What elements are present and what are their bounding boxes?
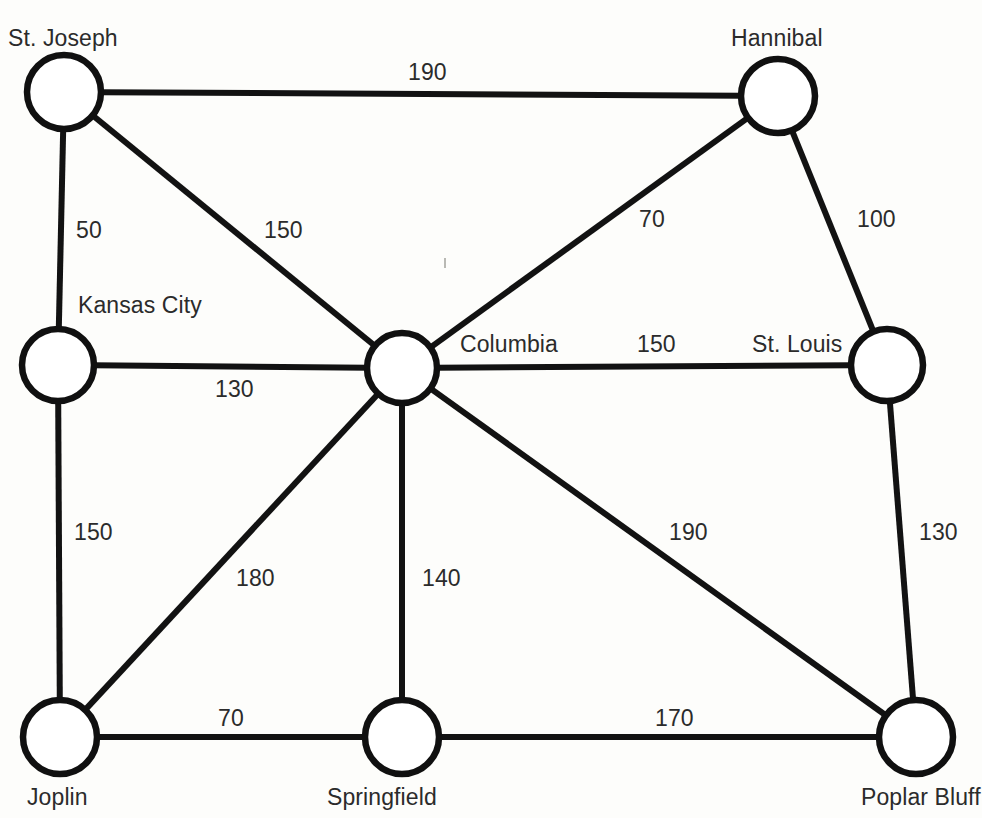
graph-diagram-canvas: 190501507010013015015018014019013070170S… (0, 0, 982, 818)
edge-st_joseph-hannibal (100, 92, 742, 96)
node-label-springfield: Springfield (327, 786, 437, 809)
edge-weight-hannibal-st_louis: 100 (857, 208, 896, 231)
edge-weight-kansas_city-columbia: 130 (215, 378, 254, 401)
node-label-joplin: Joplin (27, 786, 88, 809)
scan-speck-0 (444, 258, 446, 268)
node-joplin[interactable] (23, 700, 97, 774)
node-label-hannibal: Hannibal (731, 27, 823, 50)
edge-weight-springfield-poplar_bluff: 170 (655, 707, 694, 730)
edge-st_joseph-kansas_city (59, 128, 63, 330)
node-poplar_bluff[interactable] (879, 700, 953, 774)
edge-weight-st_louis-poplar_bluff: 130 (919, 521, 958, 544)
node-label-st_louis: St. Louis (752, 333, 842, 356)
edge-weight-st_joseph-columbia: 150 (264, 219, 303, 242)
edge-weight-columbia-st_louis: 150 (637, 333, 676, 356)
edge-weight-columbia-joplin: 180 (236, 567, 275, 590)
node-label-kansas_city: Kansas City (78, 294, 202, 317)
edge-weight-joplin-springfield: 70 (218, 707, 244, 730)
node-st_joseph[interactable] (27, 55, 101, 129)
edge-kansas_city-joplin (58, 400, 60, 701)
edge-hannibal-columbia (430, 117, 749, 348)
edge-weight-columbia-poplar_bluff: 190 (669, 521, 708, 544)
edge-weight-st_joseph-kansas_city: 50 (76, 219, 102, 242)
edge-weight-st_joseph-hannibal: 190 (408, 61, 447, 84)
edge-kansas_city-columbia (93, 365, 368, 367)
node-st_louis[interactable] (851, 329, 923, 401)
edge-weight-hannibal-columbia: 70 (639, 208, 665, 231)
edge-st_louis-poplar_bluff (890, 400, 913, 701)
node-hannibal[interactable] (741, 59, 815, 133)
node-label-st_joseph: St. Joseph (8, 27, 118, 50)
node-kansas_city[interactable] (22, 329, 94, 401)
edge-weight-columbia-springfield: 140 (422, 567, 461, 590)
edge-columbia-poplar_bluff (430, 388, 887, 716)
node-columbia[interactable] (367, 333, 437, 403)
edge-columbia-st_louis (436, 365, 852, 368)
edge-columbia-joplin (84, 393, 378, 711)
edge-weight-kansas_city-joplin: 150 (74, 521, 113, 544)
node-label-columbia: Columbia (460, 333, 558, 356)
node-label-poplar_bluff: Poplar Bluff (861, 786, 981, 809)
graph-svg-layer (0, 0, 982, 818)
edges-group (58, 92, 913, 737)
node-springfield[interactable] (365, 700, 439, 774)
